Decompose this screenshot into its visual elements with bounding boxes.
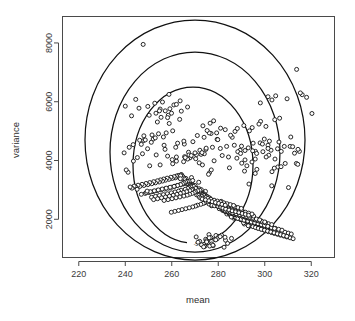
scatter-point	[258, 101, 262, 105]
scatter-point	[219, 126, 223, 130]
scatter-point	[274, 94, 278, 98]
scatter-point	[270, 98, 274, 102]
scatter-point	[155, 120, 159, 124]
scatter-point	[156, 197, 160, 201]
scatter-point	[135, 156, 139, 160]
scatter-point	[131, 159, 135, 163]
scatter-point	[167, 121, 171, 125]
scatter-point	[141, 42, 145, 46]
scatter-point	[200, 163, 204, 167]
scatter-point	[157, 109, 161, 113]
scatter-point	[164, 186, 168, 190]
scatter-point	[273, 226, 277, 230]
scatter-point	[263, 220, 267, 224]
scatter-point	[227, 166, 231, 170]
scatter-point	[153, 136, 157, 140]
scatter-point	[174, 155, 178, 159]
scatter-point	[289, 135, 293, 139]
scatter-point	[212, 159, 216, 163]
x-tick-label: 300	[257, 269, 272, 279]
scatter-point	[183, 156, 187, 160]
scatter-point	[166, 198, 170, 202]
y-tick-label: 2000	[45, 209, 55, 229]
scatter-point	[204, 146, 208, 150]
scatter-point	[207, 172, 211, 176]
scatter-point	[266, 146, 270, 150]
contour-label-gap	[196, 99, 214, 104]
scatter-point	[264, 124, 268, 128]
scatter-point	[157, 132, 161, 136]
scatter-point	[283, 161, 287, 165]
scatter-point	[131, 143, 135, 147]
scatter-point	[176, 141, 180, 145]
scatter-point	[146, 147, 150, 151]
scatter-point	[270, 170, 274, 174]
scatter-point	[138, 138, 142, 142]
scatter-point	[255, 167, 259, 171]
scatter-point	[195, 134, 199, 138]
scatter-point	[152, 189, 156, 193]
scatter-point	[232, 143, 236, 147]
scatter-point	[124, 168, 128, 172]
scatter-point	[262, 137, 266, 141]
scatter-point	[167, 92, 171, 96]
scatter-point	[207, 236, 211, 240]
scatter-point	[293, 151, 297, 155]
scatter-point	[211, 243, 215, 247]
scatter-point	[166, 116, 170, 120]
scatter-point	[147, 113, 151, 117]
scatter-point	[273, 157, 277, 161]
scatter-point	[242, 124, 246, 128]
scatter-point	[162, 198, 166, 202]
scatter-point	[182, 160, 186, 164]
scatter-point	[170, 197, 174, 201]
scatter-point	[159, 115, 163, 119]
scatter-point	[171, 129, 175, 133]
scatter-point	[222, 245, 226, 249]
scatter-point	[291, 145, 295, 149]
scatter-point	[253, 157, 257, 161]
scatter-point	[182, 194, 186, 198]
scatter-point	[194, 157, 198, 161]
scatter-point	[178, 117, 182, 121]
scatter-point	[214, 238, 218, 242]
scatter-point	[186, 105, 190, 109]
scatter-point	[266, 95, 270, 99]
scatter-point	[174, 145, 178, 149]
scatter-point	[205, 240, 209, 244]
figure-canvas: -5.5 220240260280300320 2000400060008000…	[0, 0, 355, 321]
scatter-point	[240, 144, 244, 148]
scatter-point	[161, 135, 165, 139]
scatter-point	[189, 154, 193, 158]
scatter-point	[134, 97, 138, 101]
scatter-point	[142, 134, 146, 138]
scatter-point	[191, 140, 195, 144]
scatter-point	[162, 143, 166, 147]
scatter-point	[298, 91, 302, 95]
scatter-point	[223, 128, 227, 132]
y-axis-title: variance	[10, 122, 21, 158]
scatter-point	[215, 131, 219, 135]
scatter-point	[208, 121, 212, 125]
scatter-point	[191, 179, 195, 183]
scatter-point	[255, 151, 259, 155]
scatter-point	[210, 145, 214, 149]
scatter-point	[267, 139, 271, 143]
scatter-point	[169, 210, 173, 214]
scatter-point	[243, 149, 247, 153]
scatter-point	[137, 106, 141, 110]
scatter-point	[201, 124, 205, 128]
scatter-point	[202, 245, 206, 249]
scatter-point	[139, 142, 143, 146]
scatter-point	[197, 180, 201, 184]
scatter-point	[223, 203, 227, 207]
scatter-point	[239, 206, 243, 210]
scatter-point	[243, 158, 247, 162]
scatter-point	[209, 168, 213, 172]
scatter-point	[235, 156, 239, 160]
scatter-point	[168, 185, 172, 189]
scatter-point	[178, 195, 182, 199]
scatter-plot-svg: -5.5 220240260280300320 2000400060008000…	[0, 0, 355, 321]
scatter-point	[200, 151, 204, 155]
scatter-point	[279, 149, 283, 153]
